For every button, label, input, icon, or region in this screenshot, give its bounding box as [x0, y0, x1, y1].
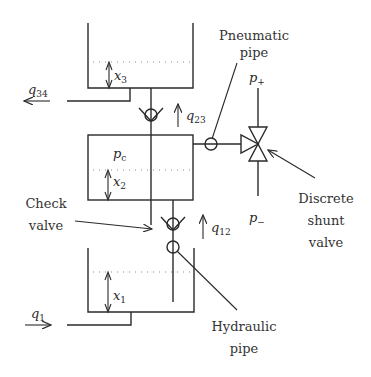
tank-3-level-arrow-icon	[106, 62, 112, 88]
tank-3-level-label: x3	[114, 68, 127, 85]
svg-text:pipe: pipe	[240, 45, 269, 60]
pneumatic-pipe	[193, 138, 241, 150]
tank-1-walls	[88, 248, 194, 312]
pointer-arrow-check-valve-icon	[75, 221, 152, 229]
svg-text:Check: Check	[25, 196, 66, 211]
tank-1-level-arrow-icon	[105, 272, 111, 312]
discrete-shunt-valve-icon	[241, 127, 267, 161]
tank-3: x3	[88, 23, 193, 88]
svg-text:Pneumatic: Pneumatic	[219, 28, 289, 43]
annotation-hydraulic-pipe: Hydraulic pipe	[177, 251, 276, 356]
svg-text:valve: valve	[308, 235, 344, 250]
svg-text:Hydraulic: Hydraulic	[212, 319, 277, 334]
tank-1-level-label: x1	[113, 288, 126, 305]
svg-text:pipe: pipe	[230, 341, 259, 356]
tank-2-level-arrow-icon	[105, 170, 111, 200]
pointer-line-hydraulic	[177, 251, 237, 310]
tank-3-walls	[88, 23, 193, 88]
outlet-pipe-q34: q34	[24, 82, 130, 101]
flow-label-q1: q1	[31, 306, 45, 323]
tank-2-walls	[88, 135, 193, 200]
annotation-check-valve: Check valve	[25, 196, 152, 233]
tank-2: x2 pc	[88, 135, 193, 200]
flow-label-q34: q34	[28, 82, 48, 99]
inlet-pipe-q1: q1	[25, 306, 131, 325]
annotation-discrete-shunt-valve: Discrete shunt valve	[268, 150, 354, 250]
svg-text:Discrete: Discrete	[298, 191, 354, 206]
tank-1: x1	[88, 248, 194, 312]
pointer-line-pneumatic	[212, 63, 237, 139]
flow-q12: q12	[203, 215, 231, 239]
svg-text:valve: valve	[28, 218, 64, 233]
tank-2-level-label: x2	[113, 174, 126, 191]
tank-2-pressure-label: pc	[113, 146, 126, 163]
flow-label-q23: q23	[186, 108, 206, 125]
pointer-arrow-shunt-valve-icon	[268, 150, 315, 178]
svg-text:shunt: shunt	[307, 213, 345, 228]
flow-label-q12: q12	[211, 220, 231, 237]
three-tank-system-diagram: x3 q34 q23 x2 pc	[0, 0, 371, 377]
flow-q23: q23	[178, 104, 206, 127]
pressure-label-p-plus: p+	[249, 70, 265, 87]
pressure-label-p-minus: p−	[249, 210, 265, 227]
